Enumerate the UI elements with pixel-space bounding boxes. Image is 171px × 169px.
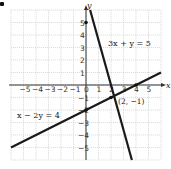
svg-text:−4: −4 bbox=[78, 131, 89, 140]
svg-text:5: 5 bbox=[147, 85, 152, 94]
y-axis-label: y bbox=[86, 1, 92, 10]
svg-text:−1: −1 bbox=[78, 94, 89, 103]
svg-text:−3: −3 bbox=[45, 85, 56, 94]
svg-text:−2: −2 bbox=[57, 85, 68, 94]
svg-text:1: 1 bbox=[97, 85, 102, 94]
svg-text:3: 3 bbox=[80, 44, 85, 53]
equation-label-1: 3x + y = 5 bbox=[108, 39, 151, 48]
equation-label-2: x − 2y = 4 bbox=[17, 111, 60, 120]
x-axis-label: x bbox=[166, 81, 171, 90]
svg-text:−5: −5 bbox=[78, 144, 89, 153]
svg-text:−4: −4 bbox=[32, 85, 43, 94]
svg-text:5: 5 bbox=[80, 19, 85, 28]
svg-text:1: 1 bbox=[80, 69, 85, 78]
svg-text:4: 4 bbox=[80, 31, 85, 40]
svg-text:−3: −3 bbox=[78, 119, 89, 128]
svg-text:−5: −5 bbox=[20, 85, 31, 94]
svg-text:2: 2 bbox=[80, 56, 85, 65]
coordinate-plane-chart: −5−4−3−2−101234554321−1−2−3−4−5 3x + y =… bbox=[0, 0, 171, 169]
intersection-label: (2, −1) bbox=[118, 97, 145, 106]
